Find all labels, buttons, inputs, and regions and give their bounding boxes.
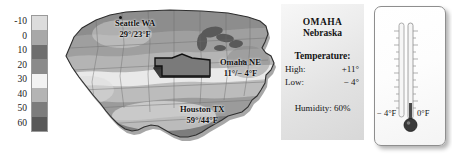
info-low-row: Low: − 4°	[281, 77, 364, 87]
thermometer-left-reading: − 4°F	[377, 108, 396, 118]
omaha-info-panel: OMAHA Nebraska Temperature: High: +11° L…	[281, 4, 364, 140]
city-name: Houston TX	[180, 104, 224, 114]
info-low-value: − 4°	[344, 77, 359, 87]
info-state-name: Nebraska	[281, 28, 364, 38]
us-map-svg	[52, 4, 284, 160]
city-temps: 59°/44°F	[180, 115, 224, 126]
info-high-label: High:	[285, 64, 306, 74]
city-temps: 29°/23°F	[115, 29, 155, 40]
us-map: Seattle WA 29°/23°F Omaha NE 11°/− 4°F H…	[52, 4, 284, 160]
info-city-name: OMAHA	[281, 17, 364, 27]
legend-swatch	[32, 45, 47, 59]
info-high-row: High: +11°	[281, 64, 364, 74]
thermometer-bulb	[404, 119, 417, 132]
city-name: Seattle WA	[115, 18, 155, 28]
legend-label: 10	[6, 43, 30, 58]
legend-label: 60	[6, 116, 30, 131]
map-temperature-bands	[52, 4, 284, 160]
info-high-value: +11°	[342, 64, 359, 74]
city-temps: 11°/− 4°F	[220, 68, 261, 79]
legend-swatch	[32, 16, 47, 30]
legend-swatch	[32, 74, 47, 88]
legend-label: 30	[6, 72, 30, 87]
weather-graphic: -10 0 10 20 30 40 50 60	[0, 0, 452, 163]
legend-label-column: -10 0 10 20 30 40 50 60	[6, 14, 30, 134]
temperature-legend: -10 0 10 20 30 40 50 60	[6, 14, 54, 134]
legend-label: 20	[6, 58, 30, 73]
thermometer-left	[394, 23, 404, 117]
city-name: Omaha NE	[220, 57, 261, 67]
legend-label: 50	[6, 101, 30, 116]
thermometer-panel: − 4°F 0°F	[374, 6, 446, 146]
legend-label: -10	[6, 14, 30, 29]
thermometer-right-reading: 0°F	[417, 108, 429, 118]
info-low-label: Low:	[285, 77, 304, 87]
thermometer-right	[404, 23, 418, 132]
info-humidity: Humidity: 60%	[281, 103, 364, 113]
legend-label: 0	[6, 29, 30, 44]
legend-swatch-column	[31, 15, 48, 132]
info-temperature-heading: Temperature:	[281, 51, 364, 61]
thermometer-svg	[375, 7, 445, 145]
city-label-omaha: Omaha NE 11°/− 4°F	[220, 57, 261, 78]
legend-label: 40	[6, 87, 30, 102]
city-label-houston: Houston TX 59°/44°F	[180, 104, 224, 125]
legend-swatch	[32, 30, 47, 44]
city-label-seattle: Seattle WA 29°/23°F	[115, 18, 155, 39]
legend-swatch	[32, 102, 47, 116]
legend-swatch	[32, 59, 47, 73]
legend-swatch	[32, 117, 47, 131]
legend-swatch	[32, 88, 47, 102]
